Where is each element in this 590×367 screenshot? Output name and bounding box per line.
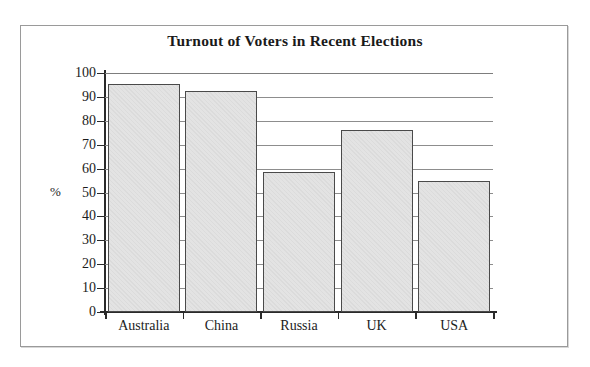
y-axis-tick: [97, 264, 105, 265]
y-axis-label: 20: [56, 256, 96, 272]
bar-usa: [418, 181, 490, 312]
y-axis-tick: [97, 73, 105, 74]
y-axis-tick: [97, 216, 105, 217]
x-axis-label-russia: Russia: [280, 318, 317, 334]
x-axis-tick: [105, 312, 107, 319]
x-axis-tick: [338, 312, 340, 319]
x-axis-tick: [415, 312, 417, 319]
y-axis-label: 40: [56, 208, 96, 224]
y-axis-label: 10: [56, 280, 96, 296]
y-axis-label: 100: [56, 65, 96, 81]
y-axis-tick: [97, 193, 105, 194]
x-axis-label-usa: USA: [440, 318, 468, 334]
bar-russia: [263, 172, 335, 312]
y-axis-tick: [97, 312, 105, 313]
x-axis-label-uk: UK: [366, 318, 386, 334]
y-axis-tick: [97, 169, 105, 170]
bar-china: [185, 91, 257, 312]
y-axis-tick: [97, 97, 105, 98]
y-axis-label: 80: [56, 113, 96, 129]
plot-area: [105, 73, 493, 312]
x-axis-tick: [183, 312, 185, 319]
y-axis-tick: [97, 288, 105, 289]
x-axis-tick: [493, 312, 495, 319]
x-axis-label-china: China: [205, 318, 238, 334]
y-axis-label: 0: [56, 304, 96, 320]
y-axis-label: 90: [56, 89, 96, 105]
gridline: [105, 73, 493, 74]
y-axis-label: 70: [56, 137, 96, 153]
x-axis-label-australia: Australia: [118, 318, 169, 334]
chart-title: Turnout of Voters in Recent Elections: [0, 32, 590, 50]
bar-uk: [341, 130, 413, 312]
y-axis-label: 50: [56, 185, 96, 201]
x-axis-tick: [260, 312, 262, 319]
y-axis-tick: [97, 145, 105, 146]
y-axis-label: 60: [56, 161, 96, 177]
y-axis-label: 30: [56, 232, 96, 248]
bar-australia: [108, 84, 180, 312]
y-axis-tick: [97, 240, 105, 241]
y-axis-tick: [97, 121, 105, 122]
